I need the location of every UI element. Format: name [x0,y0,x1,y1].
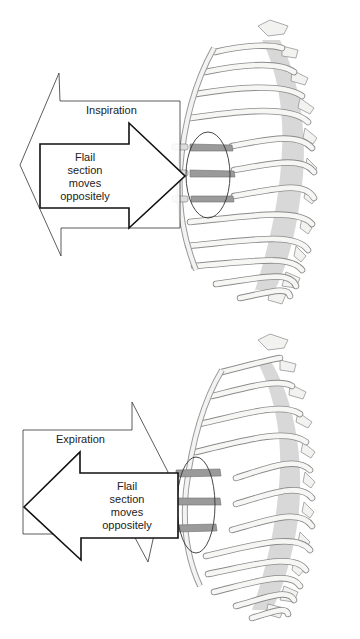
flail-caption-expiration: Flail section moves oppositely [82,480,172,532]
phase-label-expiration: Expiration [56,433,105,446]
flail-caption-inspiration: Flail section moves oppositely [40,151,130,203]
inspiration-panel: Inspiration Flail section moves opposite… [0,0,360,320]
ribcage-illustration [174,334,315,618]
expiration-illustration [0,320,360,639]
expiration-panel: Expiration Flail section moves oppositel… [0,320,360,639]
phase-label-inspiration: Inspiration [86,104,137,117]
ribcage-illustration [172,20,317,304]
